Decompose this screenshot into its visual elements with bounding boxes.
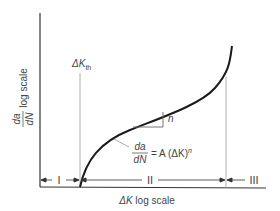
paris-law-equation: da dN = A (ΔK)n: [132, 141, 192, 165]
region-iii-arrow: [227, 178, 245, 182]
svg-text:log scale: log scale: [18, 68, 29, 108]
equation-leader-line: [114, 139, 129, 147]
x-axis-label: ΔK log scale: [118, 195, 175, 206]
crack-growth-diagram: I II III ΔKth n da dN = A (ΔK)n da dN lo…: [0, 0, 280, 211]
svg-text:dN: dN: [134, 154, 148, 165]
region-ii-label: II: [147, 174, 153, 186]
svg-text:dN: dN: [24, 112, 35, 126]
crack-growth-curve: [80, 46, 232, 187]
slope-label: n: [168, 113, 174, 124]
svg-text:= A (ΔK)n: = A (ΔK)n: [151, 147, 192, 159]
x-axis: [40, 187, 266, 188]
region-iii-label: III: [249, 174, 258, 186]
region-i-label: I: [57, 174, 60, 186]
y-axis-label: da dN log scale: [11, 68, 35, 127]
threshold-label: ΔKth: [71, 58, 91, 71]
svg-text:da: da: [11, 113, 22, 125]
svg-text:da: da: [134, 141, 146, 152]
